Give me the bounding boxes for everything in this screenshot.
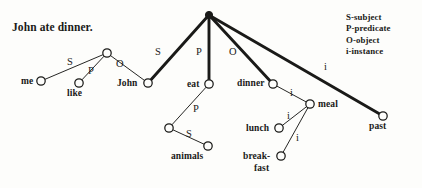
graph-node-john[interactable] (144, 79, 152, 87)
node-label-meal: meal (318, 100, 338, 110)
edge-label-e-lunch-meal: i (287, 111, 290, 122)
node-label-like: like (67, 89, 82, 99)
graph-node-relhub[interactable] (103, 49, 111, 57)
legend-item-subject: S-subject (346, 13, 390, 22)
graph-node-past[interactable] (379, 112, 387, 120)
graph-node-meal[interactable] (306, 100, 314, 108)
legend-item-predicate: P-predicate (346, 24, 390, 33)
edge-label-e-hub-john: S (155, 47, 161, 58)
legend: S-subject P-predicate O-object i-instanc… (346, 13, 390, 58)
graph-node-dinner[interactable] (269, 80, 277, 88)
graph-node-eat[interactable] (205, 80, 213, 88)
graph-node-hub[interactable] (205, 11, 212, 18)
edge-label-e-hub-eat: P (196, 47, 202, 58)
edge-label-e-relhub-like: P (88, 66, 94, 77)
node-label-john: John (117, 79, 137, 89)
semantic-network-diagram: John ate dinner. S-subject P-predicate O… (0, 0, 422, 188)
figure-caption: John ate dinner. (12, 22, 93, 34)
legend-item-instance: i-instance (346, 47, 390, 56)
edge-label-e-hub-past: i (324, 62, 327, 73)
node-label-animals: animals (171, 152, 203, 162)
edge-label-e-relhub-me: S (67, 57, 73, 68)
node-label-breakfast-2: fast (254, 164, 269, 174)
edge-label-e-eatrel-animals: S (186, 129, 192, 140)
graph-node-breakfast[interactable] (277, 152, 285, 160)
graph-node-animals[interactable] (204, 142, 212, 150)
graph-node-me[interactable] (37, 77, 45, 85)
node-label-breakfast: break- (243, 152, 270, 162)
edge-e-hub-dinner (210, 16, 270, 80)
edge-label-e-relhub-john: O (116, 59, 124, 70)
graph-node-eatrel[interactable] (165, 124, 173, 132)
edge-e-eat-eatrel (172, 88, 206, 125)
legend-item-object: O-object (346, 36, 390, 45)
nodes-layer (37, 11, 387, 160)
node-label-past: past (369, 122, 386, 132)
node-label-eat: eat (187, 80, 199, 90)
graph-node-lunch[interactable] (275, 124, 283, 132)
edge-label-e-hub-dinner: O (229, 47, 237, 58)
node-label-me: me (21, 77, 33, 87)
edge-label-e-eat-eatrel: P (193, 104, 199, 115)
node-label-lunch: lunch (246, 124, 269, 134)
edge-label-e-breakfast-meal: i (296, 133, 299, 144)
edge-label-e-dinner-meal: i (290, 88, 293, 99)
graph-node-like[interactable] (75, 79, 83, 87)
node-label-dinner: dinner (237, 79, 265, 89)
